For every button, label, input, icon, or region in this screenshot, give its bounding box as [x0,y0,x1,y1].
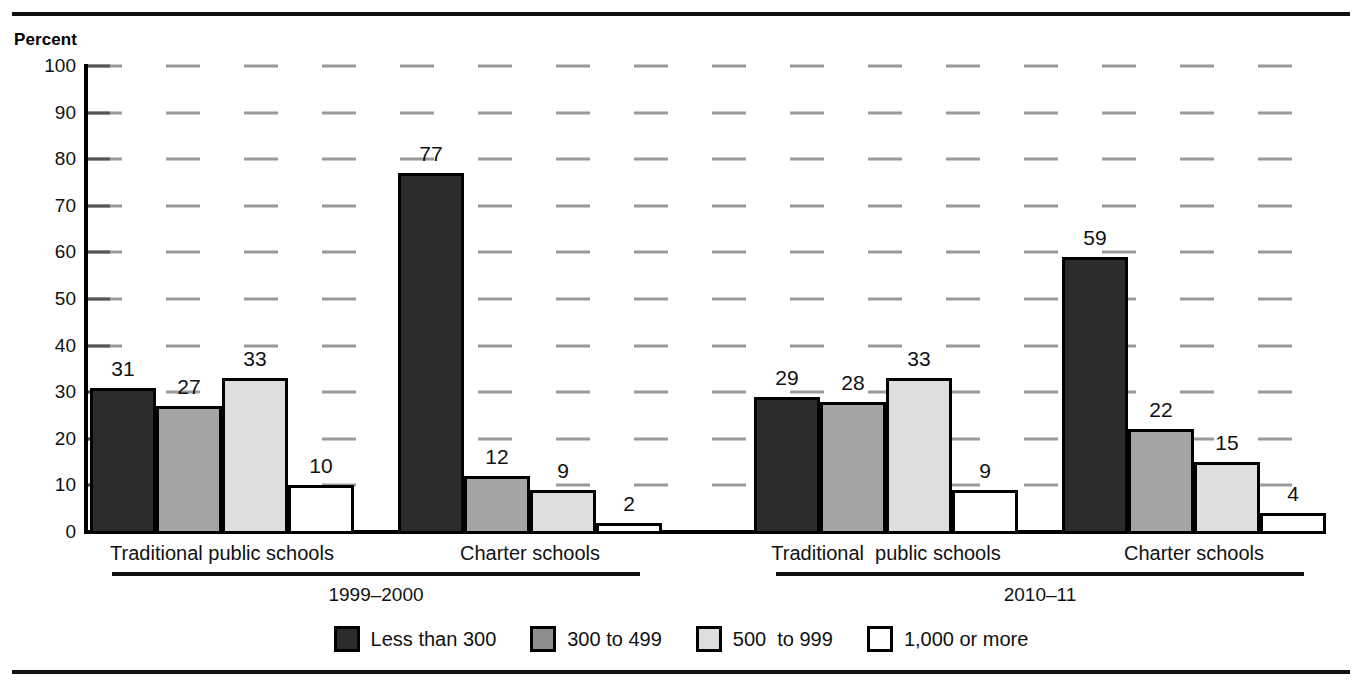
y-tick-label-20: 20 [14,428,76,450]
category-label: Charter schools [1124,542,1264,565]
y-axis-line [84,64,88,534]
legend-item: 300 to 499 [530,626,662,652]
legend-label: 1,000 or more [904,628,1029,651]
gridline-70 [88,204,1310,207]
bar-value-label: 15 [1215,431,1238,455]
year-group-underline [112,572,640,576]
y-tick-label-80: 80 [14,148,76,170]
bar [288,485,354,534]
chart-plot-area: 0102030405060708090100 31273310771292292… [0,0,1362,684]
legend-item: Less than 300 [334,626,497,652]
category-label: Charter schools [460,542,600,565]
bar-value-label: 9 [557,459,569,483]
y-tick-label-60: 60 [14,241,76,263]
swatch-medium-gray-icon [530,626,556,652]
swatch-dark-icon [334,626,360,652]
y-tick-label-40: 40 [14,335,76,357]
gridline-100 [88,65,1310,68]
bar [222,378,288,534]
bar-value-label: 31 [111,357,134,381]
y-tick-label-0: 0 [14,521,76,543]
bar [952,490,1018,534]
bar-value-label: 27 [177,375,200,399]
year-group-label: 2010–11 [1004,584,1077,606]
gridline-80 [88,158,1310,161]
bar-value-label: 29 [775,366,798,390]
y-tick-mark-40 [88,344,110,347]
bar-value-label: 4 [1287,482,1299,506]
legend-item: 1,000 or more [867,626,1029,652]
y-tick-label-50: 50 [14,288,76,310]
bar-value-label: 10 [309,454,332,478]
bar-value-label: 59 [1083,226,1106,250]
bar-value-label: 28 [841,371,864,395]
bar [1260,513,1326,534]
bar-value-label: 2 [623,492,635,516]
bar [1128,429,1194,534]
legend-label: 500 to 999 [733,628,833,651]
bar [1062,257,1128,534]
swatch-light-gray-icon [696,626,722,652]
y-tick-mark-60 [88,251,110,254]
y-tick-mark-90 [88,111,110,114]
bar [530,490,596,534]
y-tick-mark-80 [88,158,110,161]
bar [754,397,820,534]
bar [90,388,156,534]
bar-value-label: 22 [1149,398,1172,422]
bar [1194,462,1260,534]
y-tick-label-100: 100 [14,55,76,77]
y-tick-label-90: 90 [14,102,76,124]
y-tick-mark-100 [88,65,110,68]
gridline-90 [88,111,1310,114]
category-label: Traditional public schools [771,542,1000,565]
y-tick-mark-50 [88,298,110,301]
bar [886,378,952,534]
bar-value-label: 33 [243,347,266,371]
y-tick-label-30: 30 [14,381,76,403]
bar [398,173,464,534]
year-group-underline [776,572,1304,576]
category-label: Traditional public schools [110,542,334,565]
bar-value-label: 9 [979,459,991,483]
swatch-white-icon [867,626,893,652]
y-tick-label-10: 10 [14,474,76,496]
y-tick-label-70: 70 [14,195,76,217]
bar [464,476,530,534]
bar-value-label: 12 [485,445,508,469]
bar [820,402,886,534]
legend-label: Less than 300 [371,628,497,651]
gridline-60 [88,251,1310,254]
year-group-label: 1999–2000 [328,584,423,606]
bar [156,406,222,534]
legend-item: 500 to 999 [696,626,833,652]
legend-label: 300 to 499 [567,628,662,651]
bar [596,523,662,534]
bar-value-label: 33 [907,347,930,371]
chart-legend: Less than 300300 to 499500 to 9991,000 o… [0,626,1362,652]
bar-value-label: 77 [419,142,442,166]
y-tick-mark-70 [88,204,110,207]
